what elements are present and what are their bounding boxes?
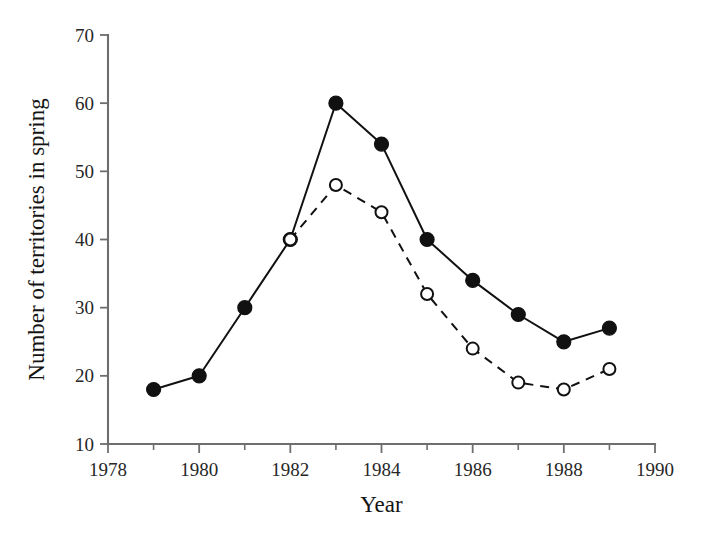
data-point[interactable] xyxy=(375,137,389,151)
data-point[interactable] xyxy=(421,288,433,300)
x-tick-label: 1984 xyxy=(363,459,402,480)
y-tick-label: 50 xyxy=(75,161,94,182)
y-tick-label: 30 xyxy=(75,297,94,318)
y-tick-label: 10 xyxy=(75,434,94,455)
x-tick-label: 1980 xyxy=(180,459,218,480)
data-point[interactable] xyxy=(558,384,570,396)
data-point[interactable] xyxy=(238,301,252,315)
x-tick-label: 1978 xyxy=(89,459,127,480)
data-point[interactable] xyxy=(420,233,434,247)
data-point[interactable] xyxy=(147,383,161,397)
axis-lines xyxy=(108,35,655,444)
y-tick-label: 20 xyxy=(75,365,94,386)
line-chart-svg: 1020304050607019781980198219841986198819… xyxy=(0,0,706,537)
data-point[interactable] xyxy=(602,321,616,335)
x-axis-title: Year xyxy=(360,492,403,517)
y-tick-label: 70 xyxy=(75,25,94,46)
data-point[interactable] xyxy=(603,363,615,375)
y-tick-label: 40 xyxy=(75,229,94,250)
chart-figure: 1020304050607019781980198219841986198819… xyxy=(0,0,706,537)
x-tick-label: 1988 xyxy=(545,459,583,480)
y-tick-label: 60 xyxy=(75,93,94,114)
data-point[interactable] xyxy=(192,369,206,383)
x-tick-label: 1982 xyxy=(271,459,309,480)
data-point[interactable] xyxy=(512,377,524,389)
data-point[interactable] xyxy=(330,179,342,191)
data-point[interactable] xyxy=(466,273,480,287)
data-point[interactable] xyxy=(557,335,571,349)
data-point[interactable] xyxy=(376,206,388,218)
data-point[interactable] xyxy=(284,234,296,246)
data-point[interactable] xyxy=(329,96,343,110)
y-axis-title: Number of territories in spring xyxy=(24,98,49,381)
series-line-1 xyxy=(290,185,609,390)
data-point[interactable] xyxy=(511,308,525,322)
data-point[interactable] xyxy=(467,343,479,355)
x-tick-label: 1990 xyxy=(636,459,674,480)
x-tick-label: 1986 xyxy=(454,459,492,480)
